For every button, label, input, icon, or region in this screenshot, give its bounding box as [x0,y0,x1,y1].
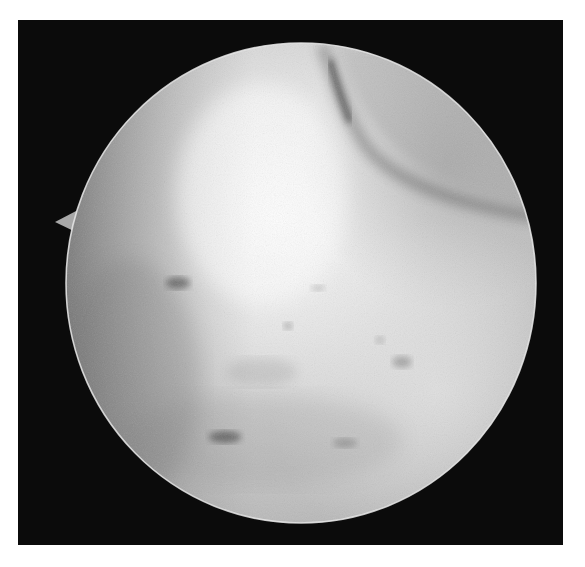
arthroscopic-view [0,0,585,567]
scope-field [60,40,545,530]
